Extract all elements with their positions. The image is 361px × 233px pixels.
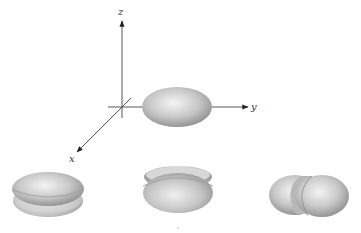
split-horizontal-ellipsoid: [12, 172, 84, 217]
main-ellipsoid: [142, 87, 212, 127]
x-axis-label: x: [69, 153, 75, 164]
split-disc-ellipsoid: [143, 166, 213, 213]
x-axis-back: [122, 98, 131, 107]
split-diagonal-ellipsoid: [269, 175, 349, 217]
stray-mark: [177, 227, 179, 229]
y-axis-label: y: [250, 101, 257, 112]
axes-group: z y x: [69, 6, 257, 164]
z-axis-label: z: [117, 6, 124, 17]
orbital-diagram: z y x: [0, 0, 361, 233]
x-axis: [77, 107, 122, 152]
